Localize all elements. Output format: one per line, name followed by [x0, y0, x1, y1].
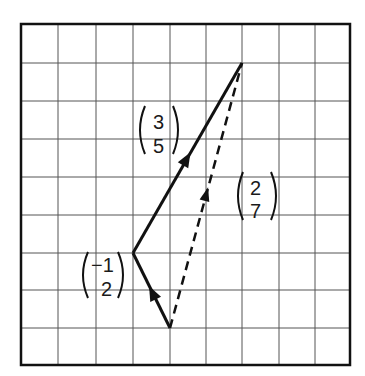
grid — [21, 24, 350, 365]
svg-text:5: 5 — [153, 135, 164, 157]
svg-text:−1: −1 — [91, 254, 114, 276]
grid-border — [21, 24, 350, 365]
label-vector-a: −1 2 — [83, 252, 123, 300]
vector-b — [133, 63, 242, 253]
svg-text:3: 3 — [153, 111, 164, 133]
label-vector-b: 3 5 — [140, 106, 178, 157]
vector-diagram: −1 2 3 5 2 7 — [0, 0, 365, 376]
svg-text:2: 2 — [101, 278, 112, 300]
svg-text:2: 2 — [250, 177, 261, 199]
svg-text:7: 7 — [250, 200, 261, 222]
